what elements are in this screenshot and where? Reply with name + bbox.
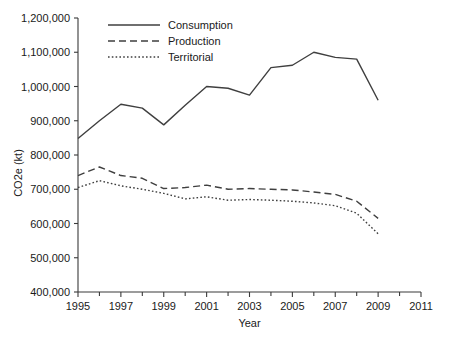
x-tick-label: 2001 bbox=[194, 300, 218, 312]
y-tick-label: 600,000 bbox=[30, 218, 70, 230]
x-tick-label: 2007 bbox=[323, 300, 347, 312]
y-tick-label: 1,100,000 bbox=[21, 46, 70, 58]
y-axis: 400,000500,000600,000700,000800,000900,0… bbox=[21, 12, 78, 298]
x-tick-label: 1999 bbox=[152, 300, 176, 312]
y-tick-label: 1,200,000 bbox=[21, 12, 70, 24]
legend-label-production: Production bbox=[168, 35, 221, 47]
x-tick-label: 2011 bbox=[409, 300, 433, 312]
legend-label-territorial: Territorial bbox=[168, 51, 213, 63]
y-axis-ticks bbox=[74, 18, 78, 292]
x-axis-ticks bbox=[78, 292, 421, 297]
legend-label-consumption: Consumption bbox=[168, 19, 233, 31]
y-tick-label: 500,000 bbox=[30, 252, 70, 264]
x-tick-label: 2009 bbox=[366, 300, 390, 312]
y-tick-label: 400,000 bbox=[30, 286, 70, 298]
y-tick-label: 800,000 bbox=[30, 149, 70, 161]
x-axis-tick-labels: 199519971999200120032005200720092011 bbox=[66, 300, 433, 312]
chart-svg: 400,000500,000600,000700,000800,000900,0… bbox=[0, 0, 450, 337]
series-line-consumption bbox=[78, 52, 378, 138]
x-tick-label: 2003 bbox=[237, 300, 261, 312]
series-lines bbox=[78, 52, 378, 234]
series-line-production bbox=[78, 167, 378, 218]
line-chart: 400,000500,000600,000700,000800,000900,0… bbox=[0, 0, 450, 337]
y-axis-title: CO2e (kt) bbox=[12, 149, 24, 197]
x-axis-title: Year bbox=[238, 317, 261, 329]
y-tick-label: 700,000 bbox=[30, 183, 70, 195]
x-tick-label: 1997 bbox=[109, 300, 133, 312]
y-axis-tick-labels: 400,000500,000600,000700,000800,000900,0… bbox=[21, 12, 70, 298]
y-tick-label: 1,000,000 bbox=[21, 81, 70, 93]
x-tick-label: 2005 bbox=[280, 300, 304, 312]
x-axis: 199519971999200120032005200720092011 bbox=[66, 292, 433, 312]
y-tick-label: 900,000 bbox=[30, 115, 70, 127]
legend: ConsumptionProductionTerritorial bbox=[108, 19, 233, 63]
x-tick-label: 1995 bbox=[66, 300, 90, 312]
